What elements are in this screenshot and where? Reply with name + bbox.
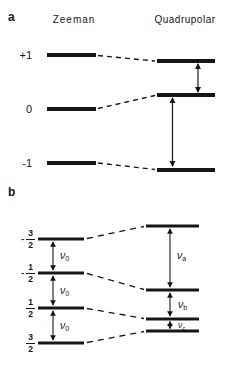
nu-subscript: 0 (65, 255, 69, 262)
fraction: 3 2 (26, 333, 35, 354)
nu-subscript: 0 (65, 290, 69, 297)
correlation-dash-a-minus1 (98, 163, 155, 170)
fraction: 3 2 (26, 229, 35, 250)
fraction-denominator: 2 (28, 344, 33, 354)
nmr-energy-level-diagram: a Zeeman Quadrupolar +1 0 -1 b - 3 2 - 1… (0, 0, 227, 365)
fraction-sign: - (21, 268, 24, 278)
nu-subscript: b (183, 304, 187, 311)
level-label-plus1: +1 (8, 50, 32, 61)
spin-label-plus3-2: 3 2 (6, 331, 35, 355)
fraction-numerator: 3 (26, 333, 35, 344)
transition-label-nuc: νc (178, 321, 185, 331)
transition-label-nu0-3: ν0 (60, 320, 69, 332)
correlation-dash-b-4 (87, 332, 144, 343)
fraction-denominator: 2 (28, 274, 33, 284)
spin-label-plus1-2: 1 2 (6, 296, 35, 320)
transition-label-nu0-2: ν0 (60, 285, 69, 297)
nu-subscript: a (182, 255, 186, 262)
correlation-dash-b-2 (87, 274, 144, 290)
fraction: 1 2 (26, 298, 35, 319)
correlation-dash-b-3 (87, 309, 144, 319)
spin-label-minus3-2: - 3 2 (6, 227, 35, 251)
spin-label-minus1-2: - 1 2 (6, 261, 35, 285)
fraction: 1 2 (26, 263, 35, 284)
correlation-dash-a-plus1 (98, 56, 155, 62)
fraction-sign: - (21, 234, 24, 244)
correlation-dash-a-zero (98, 96, 155, 109)
fraction-numerator: 1 (26, 263, 35, 274)
nu-subscript: 0 (65, 325, 69, 332)
transition-label-nua: νa (177, 250, 186, 262)
level-label-minus1: -1 (8, 158, 32, 169)
fraction-numerator: 1 (26, 298, 35, 309)
fraction-numerator: 3 (26, 229, 35, 240)
column-header-zeeman: Zeeman (44, 15, 104, 25)
transition-label-nub: νb (178, 299, 187, 311)
transition-label-nu0-1: ν0 (60, 250, 69, 262)
column-header-quadrupolar: Quadrupolar (149, 15, 221, 25)
nu-subscript: c (182, 325, 185, 331)
level-label-zero: 0 (8, 104, 32, 115)
panel-b-label: b (8, 186, 15, 198)
fraction-denominator: 2 (28, 240, 33, 250)
panel-a-label: a (8, 11, 15, 23)
correlation-dash-b-1 (87, 227, 144, 239)
fraction-denominator: 2 (28, 309, 33, 319)
